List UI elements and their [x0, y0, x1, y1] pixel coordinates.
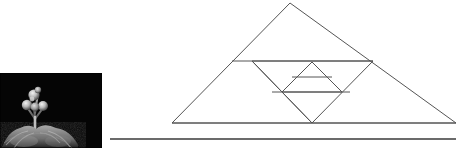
- figure-root: Nested triangle subdivision diagram with…: [0, 0, 463, 148]
- outer-triangle: [172, 3, 456, 123]
- nested-triangle-diagram: [0, 0, 463, 148]
- diagram-canvas: [0, 0, 463, 148]
